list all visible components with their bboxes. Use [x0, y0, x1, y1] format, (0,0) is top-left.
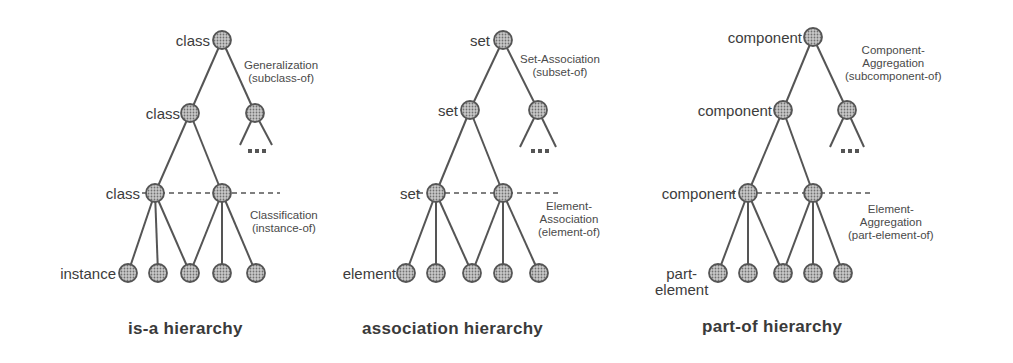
association-level3-label: set: [382, 186, 420, 201]
relation-name-1: Component-: [845, 44, 942, 57]
is-a-level3-label: class: [80, 186, 140, 201]
relation-kind: (subclass-of): [244, 72, 318, 85]
is-a-title: is-a hierarchy: [128, 319, 243, 339]
association-root-label: set: [452, 33, 490, 48]
relation-kind: (subset-of): [520, 66, 600, 79]
relation-name-1: Element-: [848, 203, 934, 216]
relation-kind: (element-of): [538, 226, 600, 239]
association-leaf-label: element: [320, 266, 396, 281]
is-a-lower-relation: Classification (instance-of): [250, 209, 318, 235]
part-of-upper-relation: Component- Aggregation (subcomponent-of): [845, 44, 942, 84]
relation-name-1: Element-: [538, 200, 600, 213]
relation-name: Classification: [250, 209, 318, 222]
relation-name: Set-Association: [520, 53, 600, 66]
relation-kind: (part-element-of): [848, 229, 934, 242]
is-a-level2-label: class: [118, 106, 180, 121]
part-of-nodes: [709, 28, 856, 282]
part-of-level2-label: component: [668, 103, 772, 118]
is-a-root-label: class: [150, 33, 210, 48]
part-of-leaf-label: part- element: [655, 266, 708, 298]
association-level2-label: set: [420, 103, 458, 118]
association-ellipsis: [531, 149, 549, 153]
relation-name: Generalization: [244, 59, 318, 72]
relation-kind: (instance-of): [250, 222, 318, 235]
association-title: association hierarchy: [362, 319, 543, 339]
is-a-leaf-label: instance: [30, 266, 116, 281]
leaf-label-line-1: part-: [655, 266, 708, 282]
part-of-lower-relation: Element- Aggregation (part-element-of): [848, 203, 934, 243]
association-lower-relation: Element- Association (element-of): [538, 200, 600, 240]
is-a-ellipsis: [248, 149, 266, 153]
leaf-label-line-2: element: [655, 282, 708, 298]
part-of-level3-label: component: [630, 186, 736, 201]
part-of-root-label: component: [700, 30, 802, 45]
association-upper-relation: Set-Association (subset-of): [520, 53, 600, 79]
part-of-ellipsis: [841, 149, 859, 153]
relation-kind: (subcomponent-of): [845, 70, 942, 83]
relation-name-2: Aggregation: [845, 57, 942, 70]
relation-name-2: Aggregation: [848, 216, 934, 229]
is-a-upper-relation: Generalization (subclass-of): [244, 59, 318, 85]
part-of-title: part-of hierarchy: [702, 317, 842, 337]
relation-name-2: Association: [538, 213, 600, 226]
